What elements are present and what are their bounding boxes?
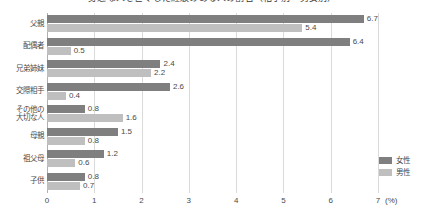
bar-female: 6.7	[47, 15, 364, 23]
chart-legend: 女性男性	[379, 157, 425, 180]
plot-area: 6.75.46.40.52.42.22.60.40.81.61.50.81.20…	[47, 13, 378, 193]
bar-fill	[47, 47, 71, 55]
category-label: その他の 大切な人	[0, 103, 44, 126]
bar-value-label: 2.4	[163, 60, 174, 68]
bar-female: 1.2	[47, 150, 104, 158]
bar-male: 0.8	[47, 137, 85, 145]
chart-title: 身近な人を亡くした経験のある人の割合（相手別・男女別）	[0, 0, 425, 4]
bar-fill	[47, 15, 364, 23]
x-tick-label: 0	[45, 196, 49, 205]
bar-value-label: 0.5	[74, 47, 85, 55]
bar-fill	[47, 38, 350, 46]
bar-value-label: 0.8	[88, 137, 99, 145]
legend-item[interactable]: 女性	[379, 157, 425, 165]
bar-value-label: 0.8	[88, 173, 99, 181]
bar-female: 2.6	[47, 83, 170, 91]
legend-item[interactable]: 男性	[379, 169, 425, 177]
bar-male: 0.5	[47, 47, 71, 55]
bar-value-label: 5.4	[305, 24, 316, 32]
bar-group: 2.42.2	[47, 58, 378, 81]
bar-value-label: 1.5	[121, 128, 132, 136]
x-axis: 01234567(%)	[47, 193, 378, 209]
bar-fill	[47, 182, 80, 190]
bar-fill	[47, 150, 104, 158]
bar-male: 1.6	[47, 114, 123, 122]
bar-value-label: 0.7	[83, 182, 94, 190]
bar-group: 6.75.4	[47, 13, 378, 36]
bar-value-label: 1.2	[107, 150, 118, 158]
bar-group: 1.20.6	[47, 148, 378, 171]
bar-value-label: 0.6	[78, 159, 89, 167]
bar-group: 0.81.6	[47, 103, 378, 126]
bar-fill	[47, 92, 66, 100]
bar-female: 1.5	[47, 128, 118, 136]
bar-chart: 身近な人を亡くした経験のある人の割合（相手別・男女別） 父親配偶者兄弟姉妹交際相…	[0, 0, 425, 219]
x-tick-label: 1	[92, 196, 96, 205]
bar-group: 1.50.8	[47, 126, 378, 149]
bar-fill	[47, 24, 302, 32]
bar-male: 0.6	[47, 159, 75, 167]
bar-rows: 6.75.46.40.52.42.22.60.40.81.61.50.81.20…	[47, 13, 378, 193]
bar-male: 0.7	[47, 182, 80, 190]
x-tick-label: 2	[139, 196, 143, 205]
x-tick-label: 3	[187, 196, 191, 205]
category-label: 父親	[0, 13, 44, 36]
bar-fill	[47, 159, 75, 167]
bar-male: 5.4	[47, 24, 302, 32]
x-tick-label: 6	[328, 196, 332, 205]
category-label: 祖父母	[0, 148, 44, 171]
bar-fill	[47, 137, 85, 145]
legend-swatch	[379, 157, 392, 164]
bar-value-label: 6.7	[367, 15, 378, 23]
bar-fill	[47, 128, 118, 136]
x-axis-unit-label: (%)	[385, 196, 397, 205]
x-tick-label: 5	[281, 196, 285, 205]
bar-group: 2.60.4	[47, 81, 378, 104]
bar-fill	[47, 69, 151, 77]
x-tick-label: 7	[376, 196, 380, 205]
legend-swatch	[379, 169, 392, 176]
category-label: 配偶者	[0, 36, 44, 59]
category-label: 母親	[0, 126, 44, 149]
x-tick-label: 4	[234, 196, 238, 205]
bar-fill	[47, 173, 85, 181]
bar-value-label: 0.4	[69, 92, 80, 100]
bar-fill	[47, 60, 160, 68]
bar-female: 2.4	[47, 60, 160, 68]
legend-label: 男性	[396, 169, 410, 177]
bar-value-label: 6.4	[353, 38, 364, 46]
category-label: 兄弟姉妹	[0, 58, 44, 81]
bar-fill	[47, 105, 85, 113]
bar-female: 0.8	[47, 105, 85, 113]
bar-group: 6.40.5	[47, 36, 378, 59]
bar-female: 6.4	[47, 38, 350, 46]
bar-fill	[47, 114, 123, 122]
bar-male: 2.2	[47, 69, 151, 77]
bar-value-label: 1.6	[126, 114, 137, 122]
bar-male: 0.4	[47, 92, 66, 100]
bar-group: 0.80.7	[47, 171, 378, 194]
category-axis-labels: 父親配偶者兄弟姉妹交際相手その他の 大切な人母親祖父母子供	[0, 13, 44, 193]
bar-female: 0.8	[47, 173, 85, 181]
bar-value-label: 0.8	[88, 105, 99, 113]
category-label: 子供	[0, 171, 44, 194]
bar-fill	[47, 83, 170, 91]
bar-value-label: 2.2	[154, 69, 165, 77]
category-label: 交際相手	[0, 81, 44, 104]
bar-value-label: 2.6	[173, 83, 184, 91]
legend-label: 女性	[396, 157, 410, 165]
